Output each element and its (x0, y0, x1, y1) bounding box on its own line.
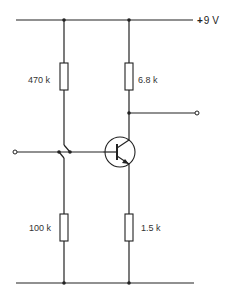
resistor-r1-label: 470 k (28, 75, 51, 85)
output-terminal[interactable] (195, 111, 199, 115)
resistor-re (125, 214, 133, 241)
circuit-diagram: +9 V 470 k 100 k 6.8 k 1.5 k (0, 0, 233, 298)
junction-ground-left (62, 281, 66, 285)
resistor-re-label: 1.5 k (141, 223, 161, 233)
wire-r2-bend (59, 152, 64, 158)
resistor-r1 (60, 63, 68, 90)
resistor-r2-label: 100 k (29, 223, 52, 233)
junction-supply-right (127, 18, 131, 22)
junction-ground-right (127, 281, 131, 285)
junction-output (127, 111, 131, 115)
resistor-rc-label: 6.8 k (138, 75, 158, 85)
supply-label: +9 V (197, 15, 219, 26)
resistor-r2 (60, 214, 68, 241)
junction-supply-left (62, 18, 66, 22)
input-terminal[interactable] (13, 150, 17, 154)
resistor-rc (125, 63, 133, 90)
junction-base (68, 150, 72, 154)
transistor-q1 (103, 137, 135, 167)
